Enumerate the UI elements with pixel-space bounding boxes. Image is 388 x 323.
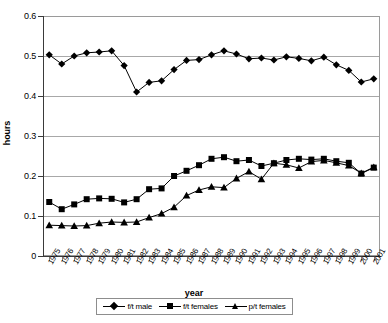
y-axis-tick-label: 0: [4, 252, 36, 261]
y-axis-tick: [38, 176, 43, 177]
y-axis-tick-label: 0.2: [4, 172, 36, 181]
legend-label: f/t females: [183, 303, 218, 311]
y-axis-tick: [38, 56, 43, 57]
gridline: [44, 56, 379, 57]
diamond-marker-icon: [103, 302, 125, 311]
gridline: [44, 216, 379, 217]
y-axis-tick: [38, 216, 43, 217]
y-axis-tick-label: 0.1: [4, 212, 36, 221]
y-axis-line: [43, 16, 44, 257]
y-axis-tick: [38, 96, 43, 97]
y-axis-tick: [38, 136, 43, 137]
y-axis-tick-label: 0.4: [4, 92, 36, 101]
chart-legend: f/t malef/t femalesp/t females: [96, 298, 293, 315]
legend-item[interactable]: p/t females: [225, 302, 286, 311]
gridline: [44, 136, 379, 137]
legend-label: p/t females: [249, 303, 286, 311]
plot-area: [43, 16, 380, 256]
y-axis-title: hours: [2, 110, 12, 156]
legend-label: f/t male: [127, 303, 152, 311]
triangle-marker-icon: [225, 302, 247, 311]
legend-item[interactable]: f/t females: [159, 302, 218, 311]
line-chart: 0.60.50.40.30.20.10 hours 19751976197719…: [0, 0, 388, 323]
y-axis-tick-label: 0.5: [4, 52, 36, 61]
gridline: [44, 176, 379, 177]
square-marker-icon: [159, 302, 181, 311]
gridline: [44, 96, 379, 97]
legend-item[interactable]: f/t male: [103, 302, 152, 311]
y-axis-tick: [38, 16, 43, 17]
y-axis-tick-label: 0.6: [4, 12, 36, 21]
y-axis-tick: [38, 256, 43, 257]
x-axis-title: year: [0, 288, 388, 298]
